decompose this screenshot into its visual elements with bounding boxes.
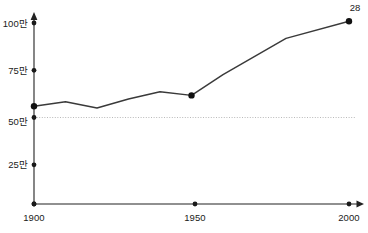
- y-tick-label-75man: 75만: [8, 65, 28, 76]
- line-chart: 100만 75만 50만 25만 1900 1950 2000 28: [0, 0, 368, 233]
- x-tick-dot-2000: [347, 202, 352, 207]
- x-tick-label-2000: 2000: [338, 212, 360, 223]
- x-axis-arrow-icon: [357, 201, 365, 208]
- data-point-marker-1950: [188, 92, 194, 98]
- y-tick-dot-75man: [32, 68, 37, 73]
- chart-canvas: 100만 75만 50만 25만 1900 1950 2000 28: [0, 0, 368, 233]
- y-tick-label-100man: 100만: [3, 18, 28, 29]
- x-tick-dot-1900: [32, 202, 37, 207]
- y-tick-label-25man: 25만: [8, 159, 28, 170]
- data-point-markers: [31, 18, 352, 109]
- y-axis-arrow-icon: [31, 12, 38, 20]
- x-tick-label-1950: 1950: [184, 212, 206, 223]
- x-tick-dot-1950: [193, 202, 198, 207]
- data-point-annotation-28: 28: [350, 2, 361, 13]
- y-tick-dot-50man: [32, 115, 37, 120]
- data-point-marker-2000: [346, 18, 352, 24]
- y-tick-dot-25man: [32, 162, 37, 167]
- data-point-marker-1900: [31, 103, 37, 109]
- x-tick-label-1900: 1900: [23, 212, 45, 223]
- y-tick-label-50man: 50만: [8, 116, 28, 127]
- y-tick-dot-100man: [32, 21, 37, 26]
